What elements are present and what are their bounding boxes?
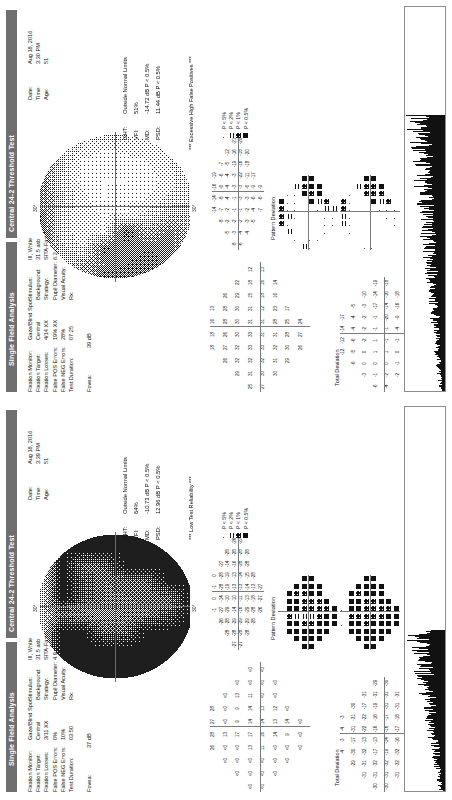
probability-symbol — [371, 192, 376, 197]
probability-symbol — [287, 214, 292, 219]
grid-cell: -2 — [225, 205, 231, 216]
strip-bar — [436, 338, 445, 339]
grid-cell: -28 — [251, 605, 257, 616]
strip-bar — [433, 196, 445, 197]
strip-bar — [429, 197, 445, 198]
strip-bar — [421, 128, 445, 129]
strip-bar — [432, 195, 445, 196]
strip-bar — [433, 213, 445, 214]
strip-bar — [439, 339, 445, 340]
grid-cell: 27 — [298, 329, 304, 340]
strip-bar — [429, 690, 445, 691]
strip-bar — [414, 186, 445, 187]
strip-bar — [439, 328, 445, 329]
strip-bar — [430, 704, 445, 705]
greyscale-map-od: 30° 30° — [40, 132, 190, 282]
grid-cell: 18 — [210, 342, 216, 353]
strip-bar — [426, 125, 445, 126]
strip-bar — [431, 322, 445, 323]
pattern-deviation-title-os: Pattern Deviation — [270, 597, 276, 640]
strip-bar — [439, 371, 445, 372]
grid-cell: -31 — [362, 770, 368, 781]
strip-bar — [432, 757, 445, 758]
strip-bar — [427, 260, 445, 261]
strip-bar — [430, 655, 445, 656]
grid-cell: -6 — [219, 170, 225, 181]
strip-bar — [429, 279, 445, 280]
strip-bar — [435, 754, 445, 755]
grid-cell: -1 — [373, 312, 379, 323]
probability-symbol — [379, 184, 384, 189]
strip-bar — [432, 144, 445, 145]
strip-bar — [434, 252, 445, 253]
strip-bar — [423, 226, 445, 227]
ght-value-od: Outside Normal Limits — [120, 57, 131, 114]
strip-bar — [437, 779, 445, 780]
grid-cell: -1 — [395, 358, 401, 369]
probability-symbol — [302, 592, 307, 597]
probability-symbol — [279, 199, 284, 204]
strip-bar — [434, 330, 445, 331]
strip-bar — [442, 381, 445, 382]
strip-bar — [442, 782, 445, 783]
strip-bar — [410, 142, 445, 143]
probability-symbol — [302, 184, 307, 189]
strip-bar — [422, 694, 445, 695]
strip-bar — [434, 241, 445, 242]
strip-bar — [419, 659, 445, 660]
strip-bar — [417, 651, 445, 652]
grid-cell: 0 — [373, 358, 379, 369]
grid-cell: 14 — [273, 277, 279, 288]
time-label: Time: — [34, 486, 42, 500]
strip-bar — [429, 298, 445, 299]
strip-bar — [437, 366, 445, 367]
strip-bar — [429, 722, 445, 723]
strip-bar — [435, 354, 445, 355]
legend-symbol — [223, 131, 224, 138]
strip-bar — [436, 742, 445, 743]
probability-symbol — [317, 584, 322, 589]
strip-bar — [427, 237, 445, 238]
probability-vertical-axis — [278, 612, 338, 613]
strip-bar — [423, 682, 445, 683]
strip-bar — [430, 287, 445, 288]
header-bar-analysis-od: Single Field Analysis — [6, 242, 17, 392]
grid-cell: -27 — [219, 559, 225, 570]
grid-cell: 16 — [273, 290, 279, 301]
grid-cell: <0 — [273, 677, 279, 688]
strip-bar — [430, 281, 445, 282]
strip-bar — [439, 385, 445, 386]
strip-bar — [430, 258, 445, 259]
grid-cell: 29 — [235, 368, 241, 379]
legend-row: P < 0.5% — [242, 508, 249, 538]
strip-bar — [438, 323, 445, 324]
strip-bar — [426, 278, 445, 279]
grid-cell: -19 — [212, 170, 218, 181]
strip-bar — [434, 198, 445, 199]
grid-cell: <0 — [223, 703, 229, 714]
strip-bar — [427, 157, 445, 158]
strip-bar — [440, 358, 445, 359]
strip-bar — [425, 689, 445, 690]
legend-row: P < 1% — [235, 508, 242, 538]
grid-cell: -29 — [245, 605, 251, 616]
probability-vertical-axis — [278, 212, 338, 213]
strip-bar — [421, 139, 445, 140]
strip-bar — [421, 219, 445, 220]
false-neg-value: 28% — [59, 300, 67, 340]
strip-bar — [424, 685, 445, 686]
md-label-od: MD: — [142, 114, 153, 140]
strip-bar — [410, 121, 445, 122]
strip-bar — [407, 640, 445, 641]
strip-bar — [408, 635, 445, 636]
probability-symbol — [287, 622, 292, 627]
patient-labels-od: Date: Time: Age: — [26, 86, 51, 100]
strip-bar — [433, 320, 445, 321]
strip-bar — [431, 264, 445, 265]
strip-bar — [428, 681, 445, 682]
legend-symbol — [229, 531, 234, 538]
foveal-row-od: Fovea:39 dB — [86, 333, 92, 392]
strip-bar — [437, 331, 445, 332]
grid-cell: -29 — [245, 616, 251, 627]
grid-cell: -3 — [340, 712, 346, 723]
